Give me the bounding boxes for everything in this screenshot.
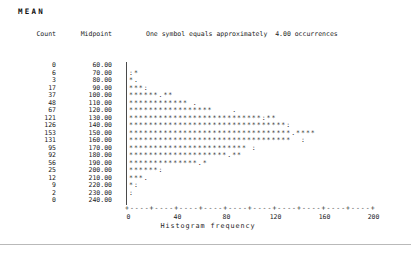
- x-axis-tick-label: 80: [223, 213, 231, 221]
- row-bar: ******:: [126, 167, 411, 175]
- row-count: 0: [0, 197, 56, 205]
- row-bar: *.: [126, 77, 411, 85]
- x-axis-tick-label: 40: [174, 213, 182, 221]
- histogram-row: 060.00: [0, 62, 411, 70]
- midpoint-column-header: Midpoint: [56, 30, 112, 38]
- row-count: 6: [0, 70, 56, 78]
- row-bar: *:: [126, 182, 411, 190]
- spss-histogram-output: MEAN Count Midpoint One symbol equals ap…: [0, 0, 411, 256]
- row-count: 12: [0, 175, 56, 183]
- symbol-scale-note: One symbol equals approximately 4.00 occ…: [146, 30, 338, 38]
- histogram-row: 1790.00***:: [0, 85, 411, 93]
- histogram-row: 380.00*.: [0, 77, 411, 85]
- bottom-divider: [0, 244, 411, 245]
- x-axis-tick-label: 0: [127, 213, 131, 221]
- row-count: 2: [0, 190, 56, 198]
- histogram-row: 37100.00******.**: [0, 92, 411, 100]
- count-column-header: Count: [0, 30, 56, 38]
- row-bar: :: [126, 190, 411, 198]
- histogram-row: 2230.00:: [0, 190, 411, 198]
- x-axis-tick-label: 160: [319, 213, 331, 221]
- histogram-row: 670.00:*: [0, 70, 411, 78]
- x-axis-line: +----+----+----+----+----+----+----+----…: [125, 205, 376, 213]
- histogram-row: 9220.00*:: [0, 182, 411, 190]
- histogram-row: 56190.00**************.*: [0, 160, 411, 168]
- page-title: MEAN: [18, 7, 45, 16]
- histogram-row: 25200.00******:: [0, 167, 411, 175]
- row-bar: **************.*: [126, 160, 411, 168]
- row-bar: :*: [126, 70, 411, 78]
- histogram-rows: 060.00670.00:*380.00*.1790.00***:37100.0…: [0, 62, 411, 205]
- row-bar: [126, 62, 411, 70]
- row-count: 0: [0, 62, 56, 70]
- row-midpoint: 240.00: [56, 197, 112, 205]
- x-axis-tick-label: 120: [270, 213, 282, 221]
- x-axis-tick-label: 200: [368, 213, 380, 221]
- row-bar: ***.: [126, 175, 411, 183]
- column-header-row: Count Midpoint One symbol equals approxi…: [0, 30, 411, 38]
- row-count: 9: [0, 182, 56, 190]
- histogram-row: 12210.00***.: [0, 175, 411, 183]
- x-axis-title: Histogram frequency: [161, 222, 256, 230]
